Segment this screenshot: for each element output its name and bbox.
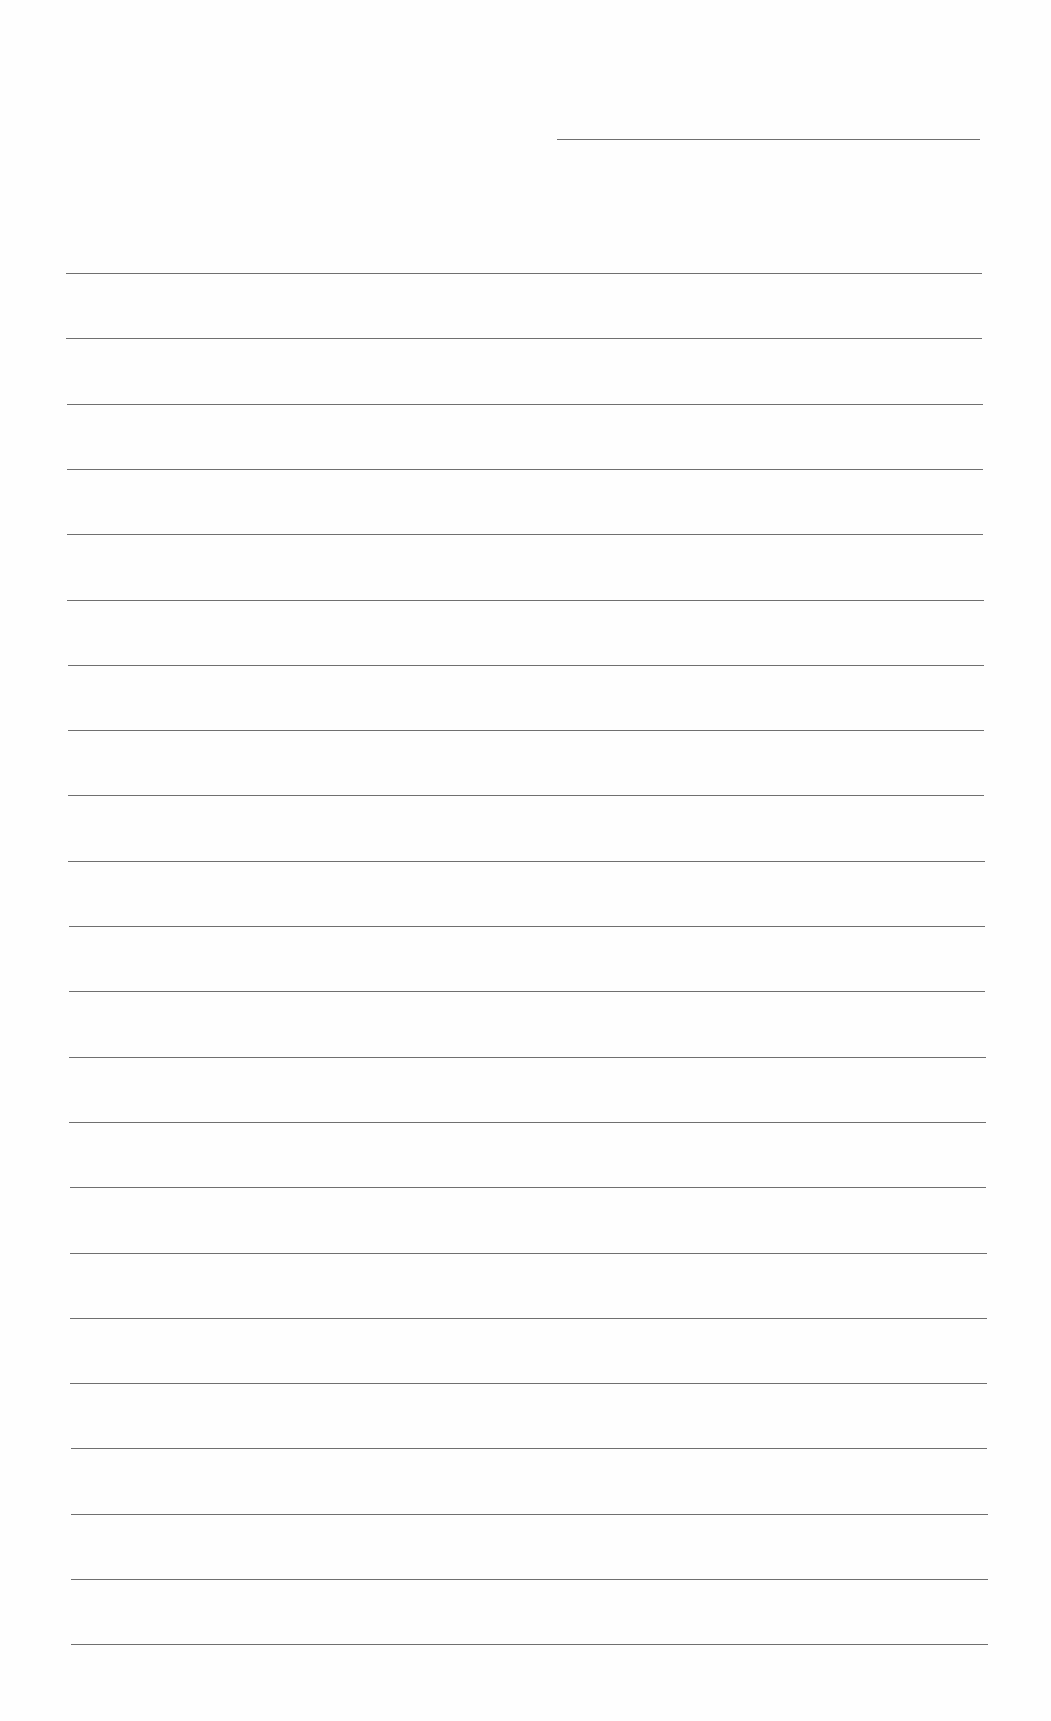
ruled-line	[66, 338, 982, 339]
ruled-line	[68, 665, 984, 666]
ruled-line	[71, 1514, 988, 1515]
ruled-line	[71, 1448, 987, 1449]
ruled-line	[70, 1187, 986, 1188]
ruled-line	[68, 730, 984, 731]
ruled-line	[70, 1253, 987, 1254]
date-line	[557, 139, 980, 140]
ruled-line	[68, 861, 985, 862]
ruled-line	[67, 404, 983, 405]
ruled-line	[70, 1383, 987, 1384]
ruled-line	[69, 991, 985, 992]
ruled-line	[68, 795, 984, 796]
ruled-line	[66, 273, 982, 274]
ruled-line	[70, 1318, 987, 1319]
ruled-line	[67, 600, 984, 601]
ruled-line	[67, 534, 983, 535]
lined-paper-page	[0, 0, 1051, 1721]
ruled-line	[69, 1122, 986, 1123]
ruled-line	[71, 1644, 988, 1645]
ruled-line	[67, 469, 983, 470]
ruled-line	[69, 1057, 986, 1058]
ruled-line	[69, 926, 985, 927]
ruled-line	[71, 1579, 988, 1580]
